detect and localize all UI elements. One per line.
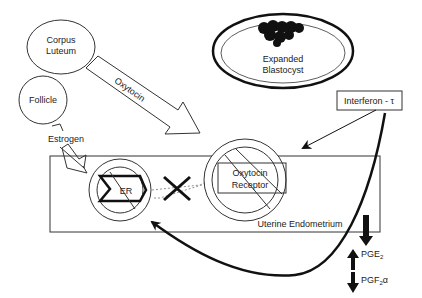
blastocyst-line1: Expanded (263, 54, 304, 64)
interferon-to-receptor-arrow (303, 110, 376, 148)
inner-cell-mass (258, 20, 304, 47)
down-arrow-icon (347, 272, 359, 293)
er-label: ER (120, 186, 133, 196)
estrogen-arrow: Estrogen (48, 124, 87, 173)
interferon-node: Interferon - τ (337, 91, 402, 110)
prostaglandin-section: PGE2 PGF2α (347, 215, 388, 293)
estrogen-receptor-node: ER (89, 159, 151, 221)
follicle-node: Follicle (19, 76, 67, 124)
pge2-label: PGE2 (361, 249, 384, 260)
blastocyst-line2: Blastocyst (262, 65, 304, 75)
follicle-label: Follicle (29, 95, 57, 105)
blocked-connection (152, 177, 212, 200)
estrogen-label: Estrogen (48, 134, 84, 144)
oxytocin-arrow: Oxytocin (86, 56, 200, 134)
corpus-luteum-line1: Corpus (46, 35, 76, 45)
diagram-canvas: Corpus Luteum Follicle Oxytocin Estrogen… (0, 0, 422, 298)
up-arrow-icon (347, 249, 359, 270)
pgf2a-label: PGF2α (361, 275, 388, 286)
blastocyst-node: Expanded Blastocyst (213, 14, 353, 88)
oxytocin-receptor-node: Oxytocin Receptor (204, 139, 286, 221)
interferon-label: Interferon - τ (344, 96, 395, 106)
corpus-luteum-line2: Luteum (46, 46, 76, 56)
corpus-luteum-node: Corpus Luteum (27, 20, 95, 74)
oxytocin-receptor-line1: Oxytocin (232, 168, 267, 178)
endometrium-label: Uterine Endometrium (257, 219, 342, 229)
down-arrow-icon (359, 215, 373, 246)
